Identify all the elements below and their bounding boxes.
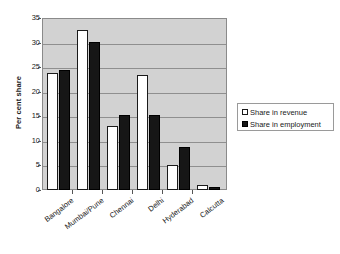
bar-revenue xyxy=(137,75,148,190)
legend-item-revenue: Share in revenue xyxy=(242,107,333,117)
bar-group-calcutta xyxy=(197,18,222,190)
bar-employment xyxy=(119,115,130,190)
bar-revenue xyxy=(47,73,58,190)
legend: Share in revenue Share in employment xyxy=(237,103,334,131)
y-tick-mark xyxy=(38,43,41,44)
y-tick-label: 10 xyxy=(20,137,40,145)
bar-employment xyxy=(149,115,160,190)
bar-group-delhi xyxy=(137,18,162,190)
bar-employment xyxy=(59,70,70,190)
y-tick-mark xyxy=(38,165,41,166)
y-tick-label: 0 xyxy=(20,186,40,194)
y-tick-label: 5 xyxy=(20,161,40,169)
bar-chart-figure: Per cent share 35 30 25 20 15 10 5 0 xyxy=(0,0,340,254)
bars-layer xyxy=(42,18,227,190)
bar-employment xyxy=(89,42,100,190)
y-tick-mark xyxy=(38,190,41,191)
y-tick-label: 15 xyxy=(20,112,40,120)
y-tick-label: 30 xyxy=(20,39,40,47)
bar-revenue xyxy=(167,165,178,190)
y-tick-mark xyxy=(38,18,41,19)
x-tick-mark xyxy=(102,190,103,194)
x-tick-mark xyxy=(132,190,133,194)
bar-group-mumbai-pune xyxy=(77,18,102,190)
legend-swatch-employment-icon xyxy=(242,121,248,127)
y-tick-mark xyxy=(38,67,41,68)
x-tick-mark xyxy=(192,190,193,194)
bar-group-bangalore xyxy=(47,18,72,190)
x-tick-mark xyxy=(162,190,163,194)
bar-employment xyxy=(209,187,220,190)
bar-employment xyxy=(179,147,190,190)
y-axis-tick-labels: 35 30 25 20 15 10 5 0 xyxy=(18,0,40,254)
bar-revenue xyxy=(77,30,88,190)
bar-group-chennai xyxy=(107,18,132,190)
y-tick-label: 20 xyxy=(20,88,40,96)
bar-group-hyderabad xyxy=(167,18,192,190)
bar-revenue xyxy=(197,185,208,190)
bar-revenue xyxy=(107,126,118,190)
y-tick-mark xyxy=(38,116,41,117)
y-tick-label: 35 xyxy=(20,14,40,22)
legend-item-employment: Share in employment xyxy=(242,119,333,129)
y-tick-mark xyxy=(38,92,41,93)
legend-swatch-revenue-icon xyxy=(242,109,248,115)
x-tick-mark xyxy=(72,190,73,194)
y-tick-mark xyxy=(38,141,41,142)
y-tick-label: 25 xyxy=(20,63,40,71)
legend-label: Share in revenue xyxy=(250,108,307,117)
legend-label: Share in employment xyxy=(250,120,321,129)
